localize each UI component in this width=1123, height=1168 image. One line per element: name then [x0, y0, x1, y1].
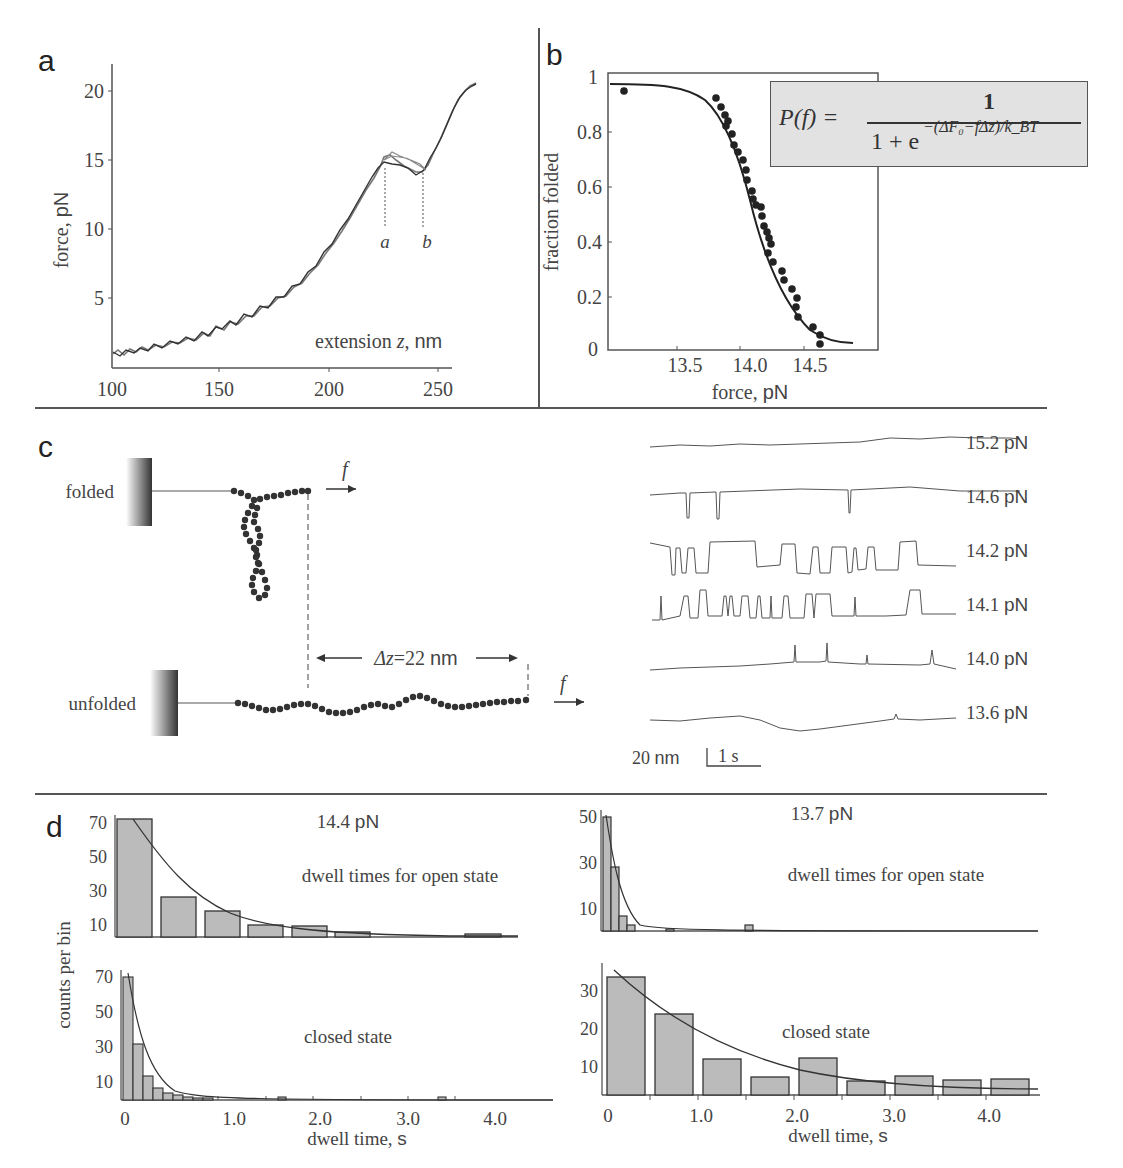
trace-label-14-1: 14.1 pN	[966, 594, 1028, 615]
svg-text:counts per bin: counts per bin	[53, 921, 74, 1029]
svg-text:14.4 pN: 14.4 pN	[317, 811, 379, 832]
svg-text:50: 50	[95, 1002, 113, 1022]
svg-text:0: 0	[120, 1108, 130, 1129]
trace-13-6	[650, 714, 956, 731]
force-symbol-unfolded: f	[560, 672, 568, 695]
anchor-wall-unfolded	[150, 670, 178, 736]
trace-14-0	[650, 643, 956, 670]
svg-text:30: 30	[89, 881, 107, 901]
trace-14-1	[652, 590, 956, 620]
svg-text:70: 70	[95, 967, 113, 987]
svg-text:14.0: 14.0	[733, 354, 768, 376]
svg-text:50: 50	[89, 847, 107, 867]
trace-label-14-0: 14.0 pN	[966, 648, 1028, 669]
trace-label-13-6: 13.6 pN	[966, 702, 1028, 723]
svg-text:0.4: 0.4	[577, 231, 602, 253]
svg-text:70: 70	[89, 813, 107, 833]
svg-text:0.8: 0.8	[577, 121, 602, 143]
formula-exponent: −(ΔF₀−fΔz)/k_BT	[923, 118, 1038, 136]
svg-text:5: 5	[94, 287, 104, 309]
folded-label: folded	[65, 481, 114, 502]
svg-text:0.6: 0.6	[577, 176, 602, 198]
svg-text:10: 10	[579, 899, 597, 919]
svg-text:4.0: 4.0	[977, 1105, 1001, 1126]
svg-text:0.2: 0.2	[577, 286, 602, 308]
trace-label-15-2: 15.2 pN	[966, 432, 1028, 453]
svg-text:4.0: 4.0	[483, 1108, 507, 1129]
formula-denominator: 1 + e	[871, 128, 919, 155]
svg-text:2.0: 2.0	[308, 1108, 332, 1129]
svg-text:fraction folded: fraction folded	[540, 153, 562, 271]
delta-z-label: Δz=22 nm	[373, 647, 458, 669]
annotation-b: b	[422, 231, 432, 252]
svg-text:1: 1	[588, 66, 598, 88]
svg-text:extension z, nm: extension z, nm	[315, 330, 442, 352]
force-symbol-folded: f	[342, 458, 350, 481]
svg-text:13.5: 13.5	[668, 354, 703, 376]
formula-box: P(f) = 1 1 + e −(ΔF₀−fΔz)/k_BT	[770, 81, 1088, 167]
hist-14-4-open: 70503010 14.4 pN dwell times for open st…	[89, 811, 518, 937]
trace-label-14-6: 14.6 pN	[966, 486, 1028, 507]
svg-text:10: 10	[89, 915, 107, 935]
svg-text:15: 15	[84, 149, 104, 171]
svg-text:0: 0	[603, 1105, 613, 1126]
trace-15-2	[650, 437, 1020, 447]
svg-text:dwell time, s: dwell time, s	[788, 1125, 888, 1146]
anchor-wall-folded	[126, 458, 152, 526]
trace-label-14-2: 14.2 pN	[966, 540, 1028, 561]
svg-text:1.0: 1.0	[689, 1105, 713, 1126]
chart-d-dwell-histograms: counts per bin 70503010 14.4 pN dwell ti…	[0, 795, 1123, 1168]
svg-text:10: 10	[95, 1072, 113, 1092]
svg-text:200: 200	[314, 378, 344, 400]
chart-b-fraction-folded: 1 0.8 0.6 0.4 0.2 0 13.5 14.0 14.5 force…	[540, 0, 1123, 410]
formula-numerator: 1	[899, 88, 1079, 115]
formula-lhs: P(f) =	[779, 104, 839, 131]
chart-c-extension-traces: 15.2 pN 14.6 pN 14.2 pN 14.1 pN 14.0 pN …	[620, 420, 1080, 780]
svg-text:13.7 pN: 13.7 pN	[791, 803, 853, 824]
unfolded-label: unfolded	[68, 693, 136, 714]
trace-14-6	[650, 487, 1020, 519]
hist-13-7-closed: 302010 01.02.03.04.0 dwell time, s close…	[580, 963, 1040, 1146]
hist-14-4-closed: 70503010 01.02.03.04.0 dwell time, s clo…	[95, 967, 553, 1149]
svg-text:250: 250	[423, 378, 453, 400]
svg-text:50: 50	[579, 807, 597, 827]
trace-14-2	[650, 541, 956, 575]
svg-text:3.0: 3.0	[882, 1105, 906, 1126]
svg-text:closed state: closed state	[782, 1021, 870, 1042]
svg-text:force, pN: force, pN	[50, 192, 72, 269]
svg-text:150: 150	[204, 378, 234, 400]
svg-text:3.0: 3.0	[396, 1108, 420, 1129]
svg-text:30: 30	[579, 853, 597, 873]
svg-text:force, pN: force, pN	[712, 381, 789, 403]
svg-text:dwell time, s: dwell time, s	[307, 1128, 407, 1149]
svg-text:30: 30	[95, 1037, 113, 1057]
svg-text:14.5: 14.5	[793, 354, 828, 376]
svg-text:10: 10	[84, 218, 104, 240]
svg-text:dwell times for open state: dwell times for open state	[302, 865, 498, 886]
svg-text:20 nm: 20 nm	[632, 748, 680, 768]
svg-text:dwell times for open state: dwell times for open state	[788, 864, 984, 885]
hist-13-7-open: 503010 13.7 pN dwell times for open stat…	[579, 803, 1038, 931]
svg-text:20: 20	[580, 1019, 598, 1039]
svg-text:closed state: closed state	[304, 1026, 392, 1047]
svg-text:1.0: 1.0	[222, 1108, 246, 1129]
chart-a-force-extension: 20 15 10 5 100 150 200 250 force, pN ext…	[0, 0, 540, 410]
svg-text:0: 0	[588, 338, 598, 360]
svg-text:2.0: 2.0	[785, 1105, 809, 1126]
svg-text:10: 10	[580, 1057, 598, 1077]
svg-text:30: 30	[580, 981, 598, 1001]
diagram-c-folding: folded f Δz=22 nm unfolded f	[0, 420, 620, 780]
svg-text:20: 20	[84, 80, 104, 102]
svg-text:1 s: 1 s	[718, 746, 739, 766]
annotation-a: a	[380, 231, 390, 252]
svg-text:100: 100	[97, 378, 127, 400]
